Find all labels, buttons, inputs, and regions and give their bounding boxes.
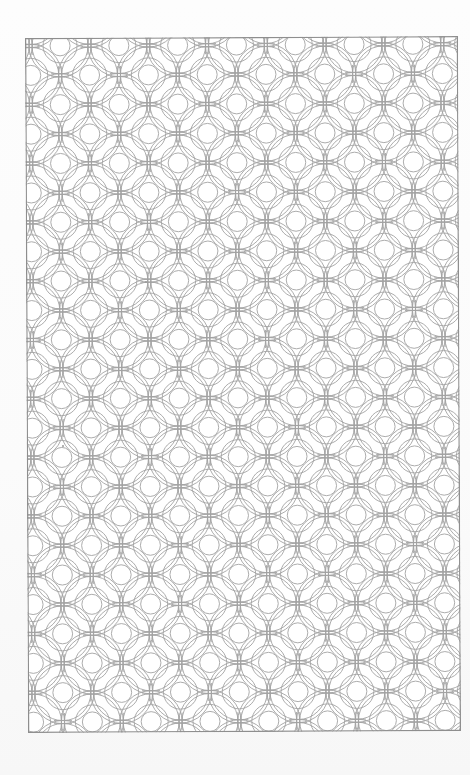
inner-circle <box>288 682 308 702</box>
inner-circle <box>80 65 100 85</box>
inner-circle <box>199 417 219 437</box>
inner-circle <box>170 682 190 702</box>
inner-circle <box>403 36 423 54</box>
inner-circle <box>82 653 102 673</box>
inner-circle <box>405 446 425 466</box>
inner-circle <box>434 534 454 554</box>
inner-circle <box>375 475 395 495</box>
circle-lattice-pattern <box>25 36 461 733</box>
inner-circle <box>140 359 160 379</box>
inner-circle <box>375 299 395 319</box>
inner-circle <box>110 271 130 291</box>
inner-circle <box>138 65 158 85</box>
inner-circle <box>51 212 71 232</box>
inner-circle <box>229 623 249 643</box>
inner-circle <box>169 388 189 408</box>
inner-circle <box>169 447 189 467</box>
inner-circle <box>110 330 130 350</box>
inner-circle <box>286 152 306 172</box>
inner-circle <box>405 563 425 583</box>
inner-circle <box>50 95 70 115</box>
inner-circle <box>140 418 160 438</box>
inner-circle <box>82 535 102 555</box>
inner-circle <box>109 153 129 173</box>
inner-circle <box>345 270 365 290</box>
inner-circle <box>169 329 189 349</box>
inner-circle <box>315 64 335 84</box>
inner-circle <box>227 270 247 290</box>
inner-circle <box>434 416 454 436</box>
inner-circle <box>257 417 277 437</box>
inner-circle <box>258 476 278 496</box>
inner-circle <box>200 711 220 731</box>
coloring-page <box>0 0 470 775</box>
inner-circle <box>344 36 364 54</box>
inner-circle <box>81 477 101 497</box>
inner-circle <box>376 534 396 554</box>
inner-circle <box>141 653 161 673</box>
inner-circle <box>198 300 218 320</box>
inner-circle <box>228 447 248 467</box>
inner-circle <box>258 652 278 672</box>
inner-circle <box>25 183 41 203</box>
inner-circle <box>25 712 44 732</box>
inner-circle <box>51 330 71 350</box>
inner-circle <box>347 623 367 643</box>
inner-circle <box>80 183 100 203</box>
inner-circle <box>197 123 217 143</box>
inner-circle <box>227 211 247 231</box>
inner-circle <box>170 623 190 643</box>
inner-circle <box>141 712 161 732</box>
inner-circle <box>346 446 366 466</box>
inner-circle <box>109 36 129 56</box>
inner-circle <box>200 653 220 673</box>
inner-circle <box>227 153 247 173</box>
inner-circle <box>435 710 455 730</box>
inner-circle <box>228 388 248 408</box>
inner-circle <box>405 622 425 642</box>
inner-circle <box>376 711 396 731</box>
inner-circle <box>374 181 394 201</box>
inner-circle <box>345 211 365 231</box>
inner-circle <box>139 300 159 320</box>
inner-circle <box>169 270 189 290</box>
inner-circle <box>374 64 394 84</box>
inner-circle <box>404 328 424 348</box>
inner-circle <box>316 417 336 437</box>
inner-circle <box>229 682 249 702</box>
inner-circle <box>404 211 424 231</box>
inner-circle <box>317 534 337 554</box>
inner-circle <box>199 476 219 496</box>
inner-circle <box>139 182 159 202</box>
inner-circle <box>403 152 423 172</box>
inner-circle <box>198 182 218 202</box>
inner-circle <box>257 358 277 378</box>
inner-circle <box>52 565 72 585</box>
inner-circle <box>168 212 188 232</box>
inner-circle <box>52 389 72 409</box>
inner-circle <box>434 358 454 378</box>
inner-circle <box>435 652 455 672</box>
inner-circle <box>52 447 72 467</box>
inner-circle <box>433 122 453 142</box>
inner-circle <box>317 593 337 613</box>
inner-circle <box>197 65 217 85</box>
inner-circle <box>287 564 307 584</box>
inner-circle <box>374 240 394 260</box>
inner-circle <box>406 681 426 701</box>
inner-circle <box>345 152 365 172</box>
inner-circle <box>435 593 455 613</box>
inner-circle <box>257 241 277 261</box>
inner-circle <box>53 683 73 703</box>
inner-circle <box>25 124 41 144</box>
inner-circle <box>139 241 159 261</box>
inner-circle <box>286 211 306 231</box>
inner-circle <box>80 241 100 261</box>
inner-circle <box>256 182 276 202</box>
inner-circle <box>434 475 454 495</box>
inner-circle <box>82 712 102 732</box>
inner-circle <box>287 388 307 408</box>
pattern-frame <box>25 36 461 733</box>
inner-circle <box>285 36 305 55</box>
inner-circle <box>110 212 130 232</box>
